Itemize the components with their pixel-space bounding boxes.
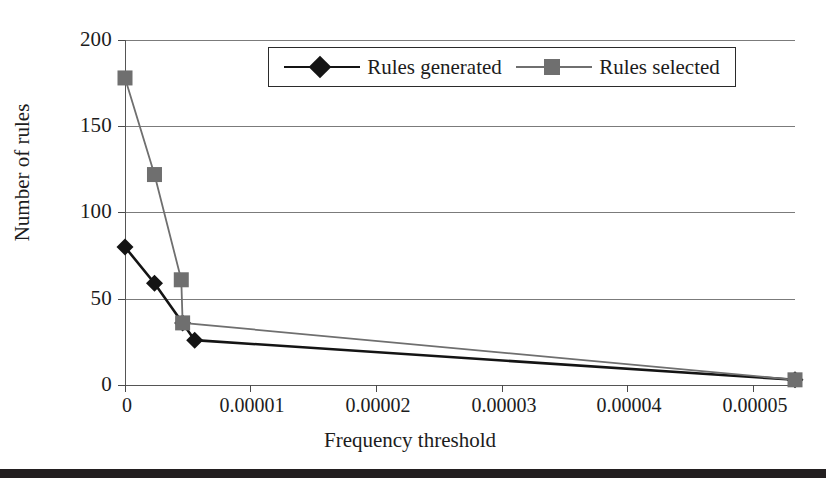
diamond-marker-icon: [186, 332, 203, 349]
diamond-marker-icon: [309, 56, 332, 79]
series-line: [125, 78, 795, 380]
square-marker-icon: [544, 59, 560, 75]
legend-sample-selected: [516, 57, 592, 77]
legend-entry-rules-selected: Rules selected: [516, 55, 720, 80]
square-marker-icon: [147, 167, 162, 182]
legend-label-generated: Rules generated: [367, 55, 502, 80]
legend-entry-rules-generated: Rules generated: [284, 55, 502, 80]
series-rules-selected: [118, 70, 803, 387]
series-line: [125, 247, 795, 380]
square-marker-icon: [175, 315, 190, 330]
chart-legend: Rules generated Rules selected: [268, 47, 736, 87]
series-rules-generated: [117, 239, 804, 389]
chart-figure: 200 150 100 50 0 0 0.00001 0.00002 0.000…: [0, 0, 826, 482]
square-marker-icon: [788, 372, 803, 387]
legend-label-selected: Rules selected: [599, 55, 720, 80]
bottom-divider-rule: [0, 469, 826, 478]
square-marker-icon: [174, 272, 189, 287]
square-marker-icon: [118, 70, 133, 85]
legend-sample-generated: [284, 57, 360, 77]
